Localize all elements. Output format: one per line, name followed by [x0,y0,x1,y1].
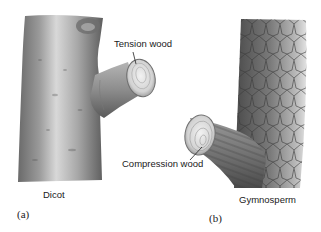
figure: Tension wood Compression wood Dicot Gymn… [0,0,321,232]
panel-b-letter: (b) [209,212,222,224]
dicot-branch [90,52,159,118]
gymnosperm-caption: Gymnosperm [239,194,296,205]
dicot-caption: Dicot [43,189,65,200]
tension-wood-label: Tension wood [114,38,172,49]
panel-a-letter: (a) [17,208,29,220]
compression-wood-label: Compression wood [122,158,203,169]
